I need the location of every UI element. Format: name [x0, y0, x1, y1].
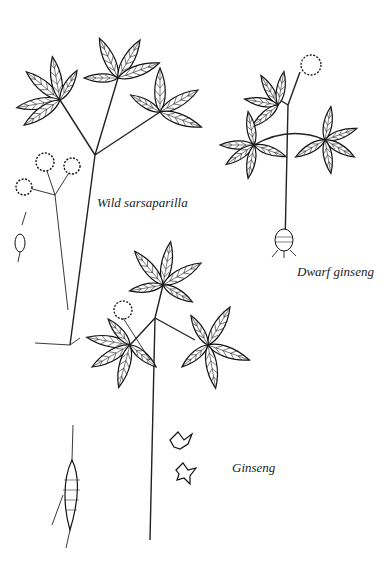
label-wild-sarsaparilla: Wild sarsaparilla [97, 195, 188, 211]
botanical-illustration [0, 0, 387, 561]
ginseng-drawing [52, 241, 251, 548]
wild-sarsaparilla-drawing [15, 36, 203, 345]
dwarf-ginseng-drawing [220, 55, 358, 258]
label-ginseng: Ginseng [232, 460, 275, 476]
label-dwarf-ginseng: Dwarf ginseng [297, 264, 374, 280]
